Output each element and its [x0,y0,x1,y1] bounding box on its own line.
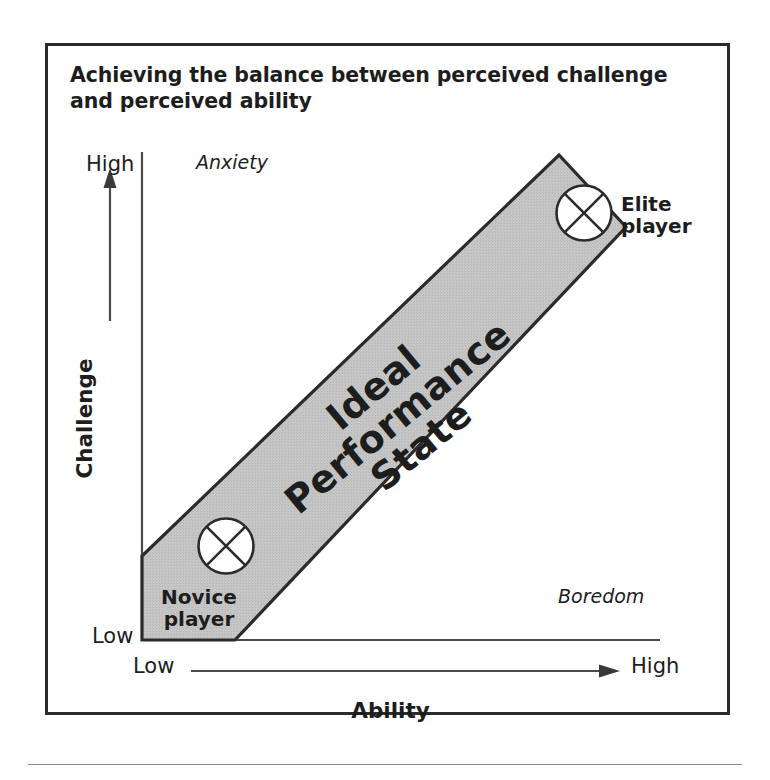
y-axis-low-label: Low [92,624,133,648]
arrow-up-icon [104,168,117,321]
figure-frame: Achieving the balance between perceived … [45,43,730,715]
marker-label-elite-player: Elite player [621,193,733,238]
circle-x-icon-novice[interactable] [199,519,254,574]
page-rule [28,764,742,765]
region-label-anxiety: Anxiety [196,151,268,173]
marker-label-novice-player: Novice player [143,586,255,631]
y-axis-title: Challenge [72,339,97,499]
arrow-right-icon [191,665,620,678]
x-axis-title: Ability [48,698,733,723]
x-axis-low-label: Low [133,654,174,678]
y-axis-high-label: High [86,152,134,176]
region-label-boredom: Boredom [558,585,644,607]
x-axis-high-label: High [631,654,679,678]
circle-x-icon-elite[interactable] [557,186,612,241]
